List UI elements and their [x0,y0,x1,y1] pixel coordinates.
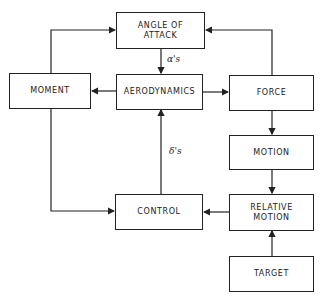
relative-motion-label: RELATIVE MOTION [250,203,293,223]
delta-label: δ's [169,146,182,156]
angle-of-attack-label: ANGLE OF ATTACK [138,21,183,41]
aerodynamics-label: AERODYNAMICS [124,87,196,97]
moment-box: MOMENT [9,73,91,109]
motion-box: MOTION [229,135,314,170]
moment-label: MOMENT [30,86,70,96]
force-box: FORCE [229,75,314,111]
control-box: CONTROL [115,194,203,230]
force-label: FORCE [257,88,287,98]
relative-motion-box: RELATIVE MOTION [229,194,314,231]
alpha-label: α's [167,54,180,64]
angle-of-attack-box: ANGLE OF ATTACK [116,12,205,49]
motion-label: MOTION [253,148,289,158]
control-label: CONTROL [137,207,180,217]
target-label: TARGET [254,269,289,279]
target-box: TARGET [229,256,314,292]
aerodynamics-box: AERODYNAMICS [116,74,203,110]
